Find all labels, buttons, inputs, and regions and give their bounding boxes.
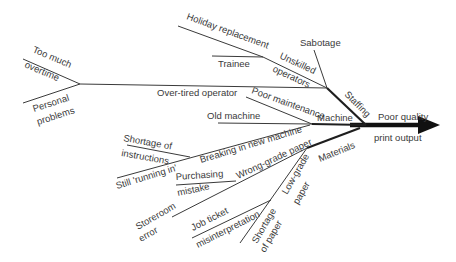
cause-storeroom-error-1: Storeroom (134, 200, 178, 232)
cause-purchasing-mistake-2: mistake (176, 180, 210, 198)
cause-purchasing-mistake-1: Purchasing (175, 168, 223, 182)
machine-line (312, 124, 366, 125)
fishbone-diagram: Poor quality print output Staffing Over-… (0, 0, 456, 262)
cause-over-tired-operator: Over-tired operator (157, 87, 237, 98)
cause-poor-maintenance: Poor maintenance (250, 85, 326, 122)
effect-label-line2: print output (374, 132, 422, 143)
cause-breaking-in-new-machine: Breaking in new machine (198, 123, 303, 165)
cause-trainee: Trainee (218, 58, 250, 69)
effect-label-line1: Poor quality (378, 111, 428, 122)
cause-sabotage: Sabotage (300, 37, 341, 48)
cause-old-machine: Old machine (207, 110, 260, 121)
trainee-line (212, 56, 263, 57)
